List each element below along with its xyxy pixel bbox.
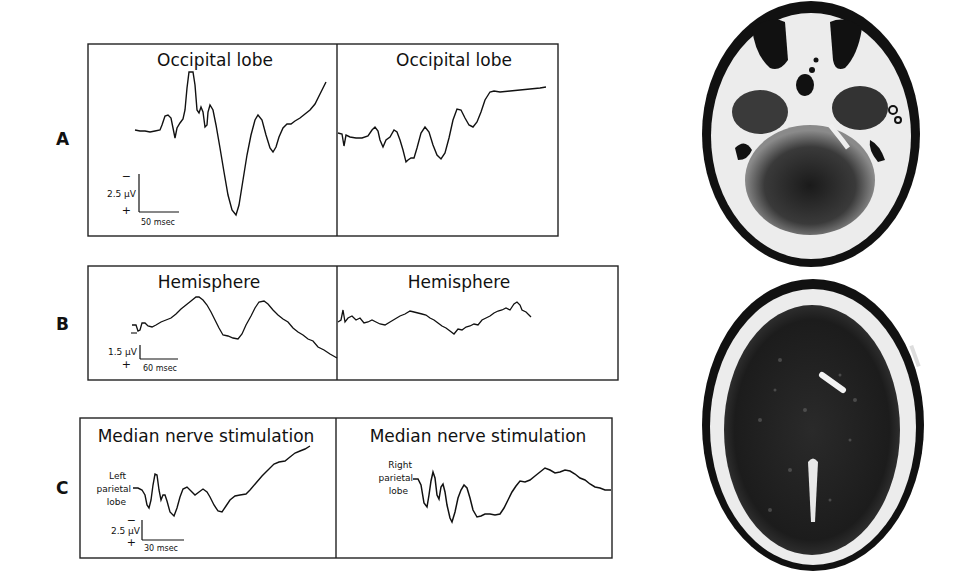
- scale-bar-a: − 2.5 μV + 50 msec: [107, 170, 179, 227]
- row-c-panels: Median nerve stimulation Median nerve st…: [80, 418, 612, 558]
- row-b-panels: Hemisphere Hemisphere 1.5 μV + 60 msec: [88, 266, 618, 380]
- panel-b-left-title: Hemisphere: [158, 272, 260, 292]
- row-a-panels: Occipital lobe Occipital lobe − 2.5 μV +…: [88, 44, 558, 236]
- svg-text:−: −: [122, 170, 131, 183]
- svg-text:parietal: parietal: [96, 484, 131, 494]
- evoked-potential-figure: Occipital lobe Occipital lobe − 2.5 μV +…: [0, 0, 967, 582]
- svg-text:lobe: lobe: [389, 486, 409, 496]
- waveform-c-right: [413, 468, 611, 522]
- panel-a-frame: [88, 44, 558, 236]
- scale-c-voltage: 2.5 μV: [111, 526, 141, 536]
- waveform-a-left: [135, 72, 326, 215]
- scale-bar-b: 1.5 μV + 60 msec: [108, 333, 178, 373]
- scale-b-voltage: 1.5 μV: [108, 347, 138, 357]
- scale-b-time: 60 msec: [143, 364, 177, 373]
- scale-c-time: 30 msec: [144, 544, 178, 553]
- scale-bar-c: − 2.5 μV + 30 msec: [111, 514, 184, 553]
- waveform-b-left: [132, 297, 337, 358]
- annotation-right-parietal: Right parietal lobe: [378, 460, 413, 496]
- svg-text:+: +: [127, 536, 136, 549]
- panel-b-right-title: Hemisphere: [408, 272, 510, 292]
- waveform-b-right: [338, 302, 531, 334]
- ct-scan-supratentorial: [702, 279, 924, 571]
- waveform-a-right: [338, 87, 546, 162]
- panel-a-right-title: Occipital lobe: [396, 50, 512, 70]
- annotation-left-parietal: Left parietal lobe: [96, 471, 131, 507]
- panel-c-right-title: Median nerve stimulation: [370, 426, 587, 446]
- scale-a-time: 50 msec: [141, 218, 175, 227]
- ct-scan-posterior-fossa: [702, 1, 920, 267]
- svg-text:+: +: [122, 358, 131, 371]
- panel-a-left-title: Occipital lobe: [157, 50, 273, 70]
- svg-text:lobe: lobe: [107, 497, 127, 507]
- panel-c-left-title: Median nerve stimulation: [98, 426, 315, 446]
- svg-text:parietal: parietal: [378, 473, 413, 483]
- svg-text:Left: Left: [109, 471, 126, 481]
- svg-text:Right: Right: [388, 460, 412, 470]
- svg-text:+: +: [122, 204, 131, 217]
- scale-a-voltage: 2.5 μV: [107, 189, 137, 199]
- waveform-c-left: [133, 446, 310, 516]
